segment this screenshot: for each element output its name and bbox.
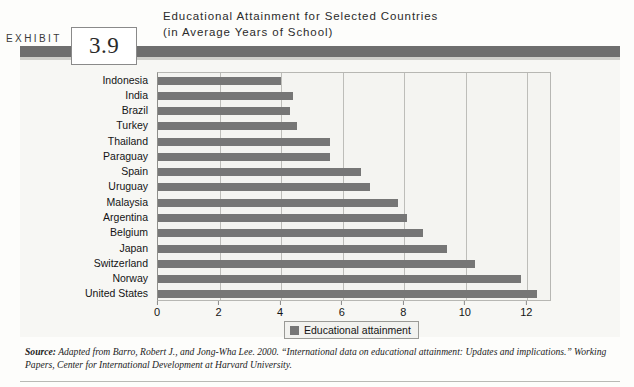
bar-row <box>158 134 550 149</box>
exhibit-number-badge: 3.9 <box>71 27 137 65</box>
x-tick-mark <box>403 301 404 305</box>
x-tick-mark <box>280 301 281 305</box>
exhibit-number: 3.9 <box>89 33 119 59</box>
bar <box>158 92 293 100</box>
x-tick-label: 10 <box>459 306 471 318</box>
bar-row <box>158 271 550 286</box>
bar-row <box>158 226 550 241</box>
bar-row <box>158 241 550 256</box>
chart-title-line-1: Educational Attainment for Selected Coun… <box>163 8 583 24</box>
chart-panel: IndonesiaIndiaBrazilTurkeyThailandParagu… <box>20 60 620 337</box>
bar <box>158 214 407 222</box>
category-label-uruguay: Uruguay <box>20 179 153 194</box>
chart-title: Educational Attainment for Selected Coun… <box>163 8 583 40</box>
x-tick-label: 8 <box>400 306 406 318</box>
category-label-paraguay: Paraguay <box>20 148 153 163</box>
bar-row <box>158 165 550 180</box>
category-label-india: India <box>20 87 153 102</box>
source-label: Source: <box>25 346 56 357</box>
category-label-belgium: Belgium <box>20 225 153 240</box>
bar-row <box>158 149 550 164</box>
bar-row <box>158 88 550 103</box>
bar <box>158 183 370 191</box>
bar <box>158 275 521 283</box>
x-tick-mark <box>341 301 342 305</box>
x-tick-mark <box>218 301 219 305</box>
category-label-indonesia: Indonesia <box>20 72 153 87</box>
plot-area <box>157 72 551 301</box>
category-label-switzerland: Switzerland <box>20 255 153 270</box>
bottom-rule <box>20 381 620 382</box>
x-tick-label: 0 <box>154 306 160 318</box>
exhibit-label: EXHIBIT <box>6 33 62 44</box>
source-note: Source: Adapted from Barro, Robert J., a… <box>25 345 615 371</box>
source-text: Adapted from Barro, Robert J., and Jong-… <box>25 346 606 370</box>
category-label-spain: Spain <box>20 164 153 179</box>
x-tick-6: 6 <box>339 301 345 318</box>
chart-title-line-2: (in Average Years of School) <box>163 24 583 40</box>
bar <box>158 229 423 237</box>
bar-row <box>158 195 550 210</box>
category-axis-labels: IndonesiaIndiaBrazilTurkeyThailandParagu… <box>20 72 153 301</box>
x-tick-8: 8 <box>400 301 406 318</box>
x-tick-12: 12 <box>520 301 532 318</box>
bar <box>158 199 398 207</box>
x-tick-mark <box>157 301 158 305</box>
category-label-united-states: United States <box>20 286 153 301</box>
bar <box>158 107 290 115</box>
legend-swatch-icon <box>290 326 299 335</box>
x-tick-mark <box>464 301 465 305</box>
bar-row <box>158 180 550 195</box>
x-tick-0: 0 <box>154 301 160 318</box>
x-tick-label: 4 <box>277 306 283 318</box>
exhibit-page: EXHIBIT Educational Attainment for Selec… <box>0 0 634 387</box>
bar <box>158 77 281 85</box>
x-axis: 024681012 <box>157 301 551 323</box>
x-tick-label: 2 <box>216 306 222 318</box>
legend-label: Educational attainment <box>304 324 411 336</box>
x-tick-2: 2 <box>216 301 222 318</box>
category-label-malaysia: Malaysia <box>20 194 153 209</box>
bar-row <box>158 287 550 302</box>
x-tick-4: 4 <box>277 301 283 318</box>
bar <box>158 122 297 130</box>
category-label-japan: Japan <box>20 240 153 255</box>
bar-row <box>158 104 550 119</box>
x-tick-label: 6 <box>339 306 345 318</box>
bar-row <box>158 210 550 225</box>
bar <box>158 168 361 176</box>
bar <box>158 260 475 268</box>
bar-row <box>158 119 550 134</box>
x-tick-10: 10 <box>459 301 471 318</box>
category-label-thailand: Thailand <box>20 133 153 148</box>
category-label-turkey: Turkey <box>20 118 153 133</box>
x-tick-mark <box>526 301 527 305</box>
bar <box>158 245 447 253</box>
bar <box>158 290 537 298</box>
category-label-brazil: Brazil <box>20 103 153 118</box>
chart-legend: Educational attainment <box>284 321 419 339</box>
bar-series <box>158 73 550 300</box>
bar <box>158 138 330 146</box>
category-label-norway: Norway <box>20 270 153 285</box>
category-label-argentina: Argentina <box>20 209 153 224</box>
bar <box>158 153 330 161</box>
x-tick-label: 12 <box>520 306 532 318</box>
bar-row <box>158 256 550 271</box>
bar-row <box>158 73 550 88</box>
